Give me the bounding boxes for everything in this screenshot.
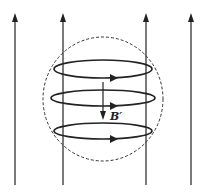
field-line-1 <box>12 13 18 185</box>
diagram-svg <box>0 0 200 195</box>
diagram-canvas: B′ <box>0 0 200 195</box>
induced-field-label: B′ <box>110 110 122 123</box>
field-line-4 <box>188 13 194 185</box>
field-line-3 <box>143 13 149 185</box>
induced-field-arrow <box>100 82 106 120</box>
current-loop-top <box>54 60 152 82</box>
field-line-2 <box>60 13 66 185</box>
current-loop-bottom <box>54 123 152 143</box>
